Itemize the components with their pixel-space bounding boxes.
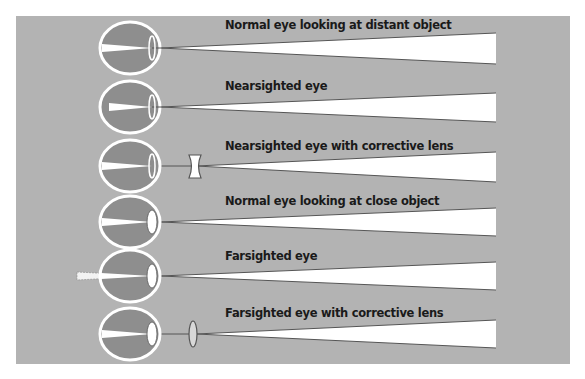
label-nearsighted-corrected: Nearsighted eye with corrective lens	[225, 139, 453, 153]
label-farsighted-corrected: Farsighted eye with corrective lens	[225, 306, 443, 320]
diagram-canvas	[0, 0, 585, 379]
eye-lens-icon	[147, 322, 157, 346]
label-nearsighted: Nearsighted eye	[225, 79, 327, 93]
label-normal-distant: Normal eye looking at distant object	[225, 18, 451, 32]
label-farsighted: Farsighted eye	[225, 249, 317, 263]
label-normal-close: Normal eye looking at close object	[225, 194, 439, 208]
eye-lens-icon	[147, 210, 157, 234]
eye-lens-icon	[147, 264, 157, 288]
eye-refraction-diagram: Normal eye looking at distant object Nea…	[0, 0, 585, 379]
convex-lens-icon	[189, 321, 197, 347]
